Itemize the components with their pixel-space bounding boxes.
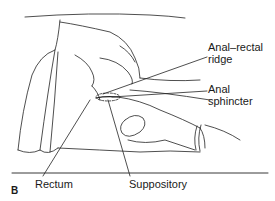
label-line: ridge [208,53,263,65]
glove-cuff [195,126,197,150]
leader-anal-rectal-ridge [103,57,207,94]
towel-outline [18,20,60,150]
leader-rectum [43,100,90,176]
label-anal-sphincter: Anal sphincter [208,83,253,107]
label-line: Anal [208,83,253,95]
label-line: Anal–rectal [208,41,263,53]
label-rectum: Rectum [35,178,73,190]
label-anal-rectal-ridge: Anal–rectal ridge [208,41,263,65]
body-contour [140,78,200,81]
panel-label: B [11,185,18,196]
label-suppository: Suppository [129,178,187,190]
sheet-top-edge [25,14,185,18]
label-line: sphincter [208,95,253,107]
lower-hand [118,97,200,128]
upper-hand [60,22,140,78]
leader-suppository [108,100,130,176]
leader-anal-sphincter [112,91,207,97]
diagram-canvas: Anal–rectal ridge Anal sphincter Rectum … [0,0,275,201]
